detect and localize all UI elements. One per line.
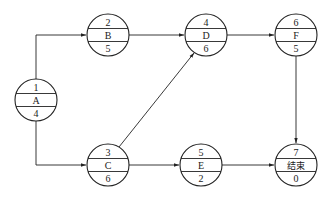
node-activity-name: E (198, 160, 204, 171)
node-c: 3C6 (87, 144, 129, 186)
node-activity-name: A (32, 95, 40, 106)
node-duration: 0 (294, 173, 299, 184)
node-duration: 2 (199, 173, 204, 184)
edge-a-to-b (36, 35, 86, 79)
node-end: 7结束0 (275, 144, 317, 186)
node-activity-name: B (105, 30, 112, 41)
node-duration: 4 (34, 108, 39, 119)
node-number: 2 (106, 17, 111, 28)
node-number: 6 (294, 17, 299, 28)
node-number: 1 (34, 82, 39, 93)
node-duration: 6 (204, 43, 209, 54)
node-duration: 6 (106, 173, 111, 184)
edges (36, 35, 296, 165)
node-activity-name: F (293, 30, 299, 41)
edge-a-to-c (36, 121, 86, 165)
node-duration: 5 (106, 43, 111, 54)
node-e: 5E2 (180, 144, 222, 186)
node-number: 5 (199, 147, 204, 158)
node-activity-name: 结束 (287, 160, 305, 171)
node-number: 7 (294, 147, 299, 158)
node-duration: 5 (294, 43, 299, 54)
node-number: 3 (106, 147, 111, 158)
node-a: 1A4 (15, 79, 57, 121)
node-f: 6F5 (275, 14, 317, 56)
node-number: 4 (204, 17, 209, 28)
node-d: 4D6 (185, 14, 227, 56)
network-diagram: 1A42B53C64D65E26F57结束0 (0, 0, 331, 201)
node-b: 2B5 (87, 14, 129, 56)
nodes: 1A42B53C64D65E26F57结束0 (15, 14, 317, 186)
node-activity-name: D (202, 30, 209, 41)
node-activity-name: C (105, 160, 112, 171)
edge-c-to-d (119, 53, 194, 147)
